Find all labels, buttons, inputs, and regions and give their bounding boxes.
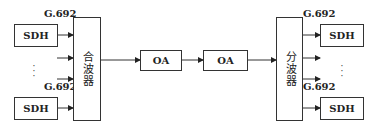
sdh-box-left-top: SDH — [14, 24, 58, 47]
sdh-label: SDH — [329, 103, 354, 114]
sdh-label: SDH — [23, 103, 48, 114]
wdm-diagram: G.692 SDH ··· G.692 SDH 合波器 OA OA 分波器 G.… — [0, 0, 375, 129]
oa-label: OA — [153, 55, 169, 66]
g692-label-right-top: G.692 — [303, 9, 336, 19]
g692-label-left-top: G.692 — [44, 9, 77, 19]
g692-label-right-bottom: G.692 — [303, 82, 336, 92]
combiner-label: 合波器 — [79, 51, 95, 87]
divider-label: 分波器 — [282, 51, 298, 87]
ellipsis-right: ··· — [339, 64, 345, 79]
combiner-box: 合波器 — [73, 17, 101, 121]
g692-label-left-bottom: G.692 — [44, 82, 77, 92]
sdh-box-left-bottom: SDH — [14, 97, 58, 120]
sdh-box-right-bottom: SDH — [320, 97, 364, 120]
sdh-label: SDH — [329, 30, 354, 41]
ellipsis-left: ··· — [31, 64, 37, 79]
sdh-label: SDH — [23, 30, 48, 41]
optical-amplifier-1: OA — [140, 50, 182, 71]
sdh-box-right-top: SDH — [320, 24, 364, 47]
divider-box: 分波器 — [276, 17, 303, 121]
optical-amplifier-2: OA — [203, 50, 248, 71]
oa-label: OA — [217, 55, 233, 66]
